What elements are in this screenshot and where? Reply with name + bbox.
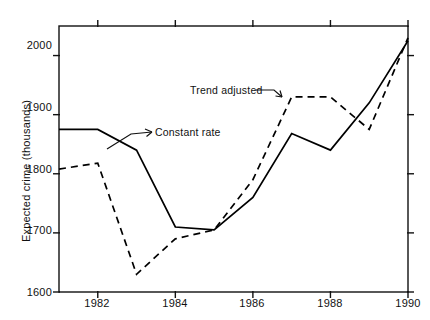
y-tick-label-2000: 2000 — [6, 39, 52, 51]
data-series-group — [59, 38, 408, 274]
chart-container: 2000 1900 1800 1700 1600 1982 1984 1986 … — [0, 0, 430, 320]
chart-plot-area — [0, 0, 430, 320]
annotation-trend-adjusted: Trend adjusted — [190, 84, 262, 96]
x-axis-ticks — [98, 20, 408, 298]
annotation-constant-rate: Constant rate — [155, 126, 221, 138]
x-tick-label-1990: 1990 — [384, 297, 430, 309]
x-tick-label-1982: 1982 — [73, 297, 121, 309]
annotation-leaders — [107, 90, 282, 149]
x-tick-label-1986: 1986 — [228, 297, 276, 309]
y-axis-title: Expected crime (thousands) — [20, 100, 32, 242]
x-tick-label-1988: 1988 — [306, 297, 354, 309]
y-tick-label-1600: 1600 — [6, 286, 52, 298]
plot-frame — [59, 26, 408, 292]
series-line-constant-rate — [59, 41, 408, 230]
x-tick-label-1984: 1984 — [151, 297, 199, 309]
series-line-trend-adjusted — [59, 38, 408, 274]
